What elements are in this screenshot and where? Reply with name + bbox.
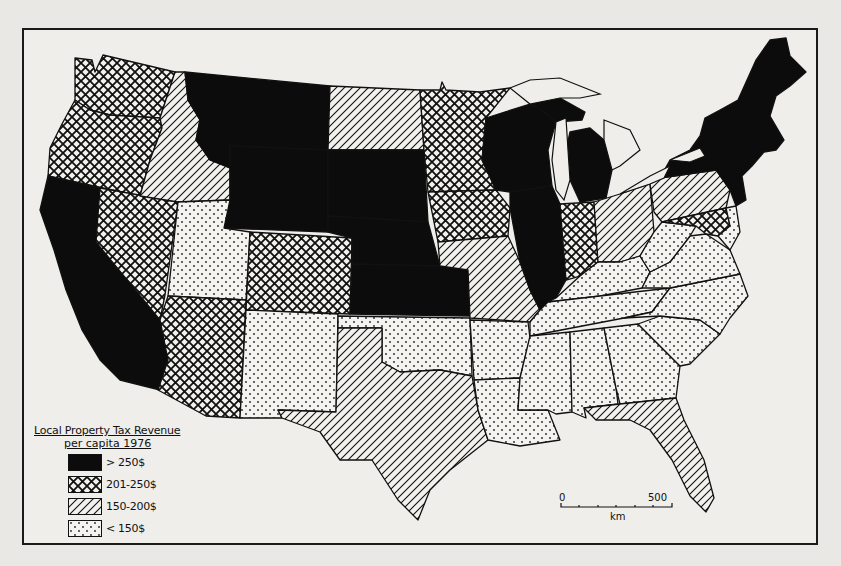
legend-item-150-200: 150-200$ xyxy=(68,495,204,517)
legend-label: 201-250$ xyxy=(106,478,157,491)
scale-end: 500 xyxy=(648,492,667,503)
state-wisconsin xyxy=(482,104,556,192)
solid-black-swatch xyxy=(68,454,102,471)
scale-start: 0 xyxy=(559,492,565,503)
state-new-mexico xyxy=(240,310,338,418)
dots-swatch xyxy=(68,520,102,537)
crosshatch-swatch xyxy=(68,476,102,493)
state-wyoming xyxy=(224,146,328,232)
state-washington xyxy=(75,55,175,118)
state-iowa xyxy=(428,190,510,242)
scale-bar: 0 500 km xyxy=(556,492,676,532)
map-legend: Local Property Tax Revenue per capita 19… xyxy=(34,424,204,539)
legend-item-below-150: < 150$ xyxy=(68,517,204,539)
state-kansas xyxy=(350,264,470,316)
legend-label: > 250$ xyxy=(106,456,145,469)
diagonal-hatch-swatch xyxy=(68,498,102,515)
state-arizona xyxy=(158,296,246,418)
scale-unit: km xyxy=(610,511,626,522)
state-north-dakota xyxy=(328,86,424,150)
legend-title: Local Property Tax Revenue xyxy=(34,424,204,437)
legend-label: < 150$ xyxy=(106,522,145,535)
lake-huron xyxy=(604,120,640,170)
legend-subtitle: per capita 1976 xyxy=(64,437,204,451)
state-south-dakota xyxy=(328,150,428,222)
state-colorado xyxy=(246,232,352,314)
lake-michigan xyxy=(552,118,570,200)
legend-item-201-250: 201-250$ xyxy=(68,473,204,495)
legend-item-above-250: > 250$ xyxy=(68,451,204,473)
legend-label: 150-200$ xyxy=(106,500,157,513)
